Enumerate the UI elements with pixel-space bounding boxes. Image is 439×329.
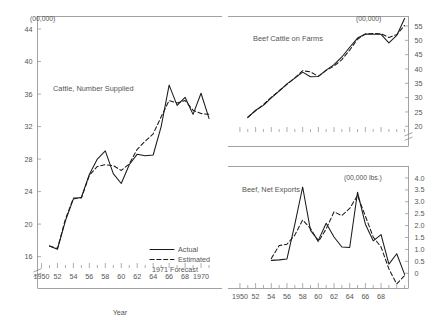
x-tick-label: 68	[377, 292, 385, 301]
y-tick-label: 36	[25, 90, 33, 99]
y-tick-label: 44	[25, 25, 33, 34]
y-tick-label: 55	[415, 22, 423, 31]
topright-x-ticks	[240, 127, 405, 132]
bottomright-estimated-line	[271, 196, 404, 284]
y-tick-label: 4.0	[415, 174, 425, 183]
y-tick-label: 35	[415, 79, 423, 88]
cattle-number-supplied-chart: 1620242832364044 19505254565860626466681…	[0, 0, 228, 329]
x-tick-label: 62	[133, 272, 141, 281]
beef-cattle-on-farms-chart: 2025303540455055 (00,000) Beef Cattle on…	[228, 0, 439, 163]
x-tick-label: 54	[69, 272, 77, 281]
y-tick-label: 40	[25, 57, 33, 66]
bottomright-y-ticks: 00.51.01.52.02.53.03.54.0	[405, 174, 425, 278]
y-tick-label: 32	[25, 122, 33, 131]
y-tick-label: 1.5	[415, 233, 425, 242]
x-tick-label: 54	[267, 292, 275, 301]
y-tick-label: 20	[25, 220, 33, 229]
x-tick-label: 64	[346, 292, 354, 301]
y-tick-label: 3.5	[415, 185, 425, 194]
left-unit-label: (00,000)	[30, 15, 55, 23]
panel-beef-cattle-on-farms: 2025303540455055 (00,000) Beef Cattle on…	[228, 0, 439, 163]
x-tick-label: 56	[283, 292, 291, 301]
bottomright-x-ticks: 1950525456586062646668	[232, 283, 405, 301]
y-tick-label: 24	[25, 187, 33, 196]
x-tick-label: 1950	[33, 272, 49, 281]
topright-unit-label: (00,000)	[356, 15, 381, 23]
x-axis-title: Year	[113, 308, 128, 317]
y-tick-label: 25	[415, 108, 423, 117]
y-tick-label: 0	[415, 269, 419, 278]
legend-estimated-label: Estimated	[178, 255, 210, 264]
topright-y-ticks: 2025303540455055	[405, 22, 423, 131]
left-estimated-line	[49, 101, 209, 249]
x-tick-label: 60	[314, 292, 322, 301]
x-tick-label: 52	[252, 292, 260, 301]
legend: Actual Estimated 1971 Forecast	[150, 245, 210, 274]
panel-cattle-number-supplied: 1620242832364044 19505254565860626466681…	[0, 0, 228, 329]
bottomright-unit-label: (00,000 lbs.)	[344, 174, 382, 182]
y-tick-label: 16	[25, 252, 33, 261]
y-tick-label: 2.5	[415, 209, 425, 218]
figure-root: 1620242832364044 19505254565860626466681…	[0, 0, 439, 329]
bottomright-panel-title: Beef, Net Exports	[242, 185, 300, 194]
y-tick-label: 40	[415, 65, 423, 74]
x-tick-label: 1950	[232, 292, 248, 301]
y-tick-label: 30	[415, 93, 423, 102]
y-tick-label: 1.0	[415, 245, 425, 254]
y-tick-label: 50	[415, 36, 423, 45]
y-tick-label: 45	[415, 50, 423, 59]
y-tick-label: 2.0	[415, 221, 425, 230]
bottomright-actual-line	[271, 187, 404, 274]
y-tick-label: 20	[415, 122, 423, 131]
x-tick-label: 56	[85, 272, 93, 281]
legend-actual-label: Actual	[178, 245, 198, 254]
topright-panel-title: Beef Cattle on Farms	[253, 34, 323, 43]
legend-forecast-label: 1971 Forecast	[152, 265, 198, 274]
x-tick-label: 66	[361, 292, 369, 301]
left-panel-title: Cattle, Number Supplied	[53, 84, 134, 93]
panel-beef-net-exports: 00.51.01.52.02.53.03.54.0 19505254565860…	[228, 160, 439, 329]
x-tick-label: 52	[53, 272, 61, 281]
x-tick-label: 58	[101, 272, 109, 281]
y-tick-label: 3.0	[415, 197, 425, 206]
beef-net-exports-chart: 00.51.01.52.02.53.03.54.0 19505254565860…	[228, 160, 439, 329]
y-tick-label: 28	[25, 155, 33, 164]
x-tick-label: 62	[330, 292, 338, 301]
x-tick-label: 58	[299, 292, 307, 301]
left-actual-line	[49, 85, 209, 249]
x-tick-label: 60	[117, 272, 125, 281]
left-y-ticks: 1620242832364044	[25, 25, 42, 262]
y-tick-label: 0.5	[415, 257, 425, 266]
